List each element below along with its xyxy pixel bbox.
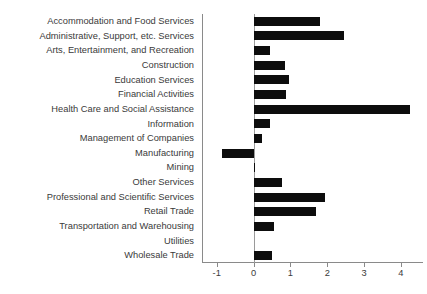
x-axis-tick	[217, 263, 218, 267]
x-axis-tick	[401, 263, 402, 267]
x-axis-tick	[290, 263, 291, 267]
category-label: Construction	[142, 58, 194, 73]
bar	[254, 46, 271, 55]
x-axis-tick-label: 4	[389, 268, 413, 278]
category-label: Arts, Entertainment, and Recreation	[46, 43, 194, 58]
bar	[222, 149, 254, 158]
x-axis-tick-label: 1	[278, 268, 302, 278]
bar	[254, 75, 289, 84]
bar	[254, 207, 317, 216]
category-label: Professional and Scientific Services	[47, 190, 194, 205]
category-label: Transportation and Warehousing	[59, 219, 194, 234]
bar	[254, 105, 411, 114]
category-label: Management of Companies	[80, 131, 194, 146]
plot-area	[202, 14, 423, 263]
bar	[254, 178, 283, 187]
category-label: Other Services	[133, 175, 194, 190]
category-label: Wholesale Trade	[124, 248, 194, 263]
category-label: Retail Trade	[144, 204, 194, 219]
x-axis-tick	[254, 263, 255, 267]
bar	[254, 134, 262, 143]
bar	[254, 193, 326, 202]
category-label: Information	[147, 117, 194, 132]
category-axis-labels: Accommodation and Food ServicesAdministr…	[0, 14, 198, 263]
x-axis-tick	[327, 263, 328, 267]
bar-chart: Accommodation and Food ServicesAdministr…	[0, 0, 427, 294]
category-label: Administrative, Support, etc. Services	[40, 29, 195, 44]
x-axis-tick-label: 2	[315, 268, 339, 278]
bar	[254, 61, 285, 70]
bar	[254, 17, 320, 26]
bar	[254, 163, 256, 172]
bar	[254, 222, 274, 231]
category-label: Financial Activities	[118, 87, 194, 102]
axis-spine-left	[202, 14, 203, 263]
x-axis-tick	[364, 263, 365, 267]
x-axis-tick-label: -1	[205, 268, 229, 278]
bar	[254, 119, 270, 128]
x-axis-tick-label: 0	[242, 268, 266, 278]
bar	[254, 90, 287, 99]
x-axis-tick-label: 3	[352, 268, 376, 278]
bar	[254, 31, 344, 40]
category-label: Manufacturing	[135, 146, 194, 161]
category-label: Accommodation and Food Services	[47, 14, 194, 29]
category-label: Utilities	[164, 234, 194, 249]
category-label: Education Services	[114, 73, 194, 88]
x-axis: -101234	[202, 263, 423, 294]
category-label: Health Care and Social Assistance	[51, 102, 194, 117]
bar	[254, 251, 272, 260]
category-label: Mining	[167, 160, 194, 175]
